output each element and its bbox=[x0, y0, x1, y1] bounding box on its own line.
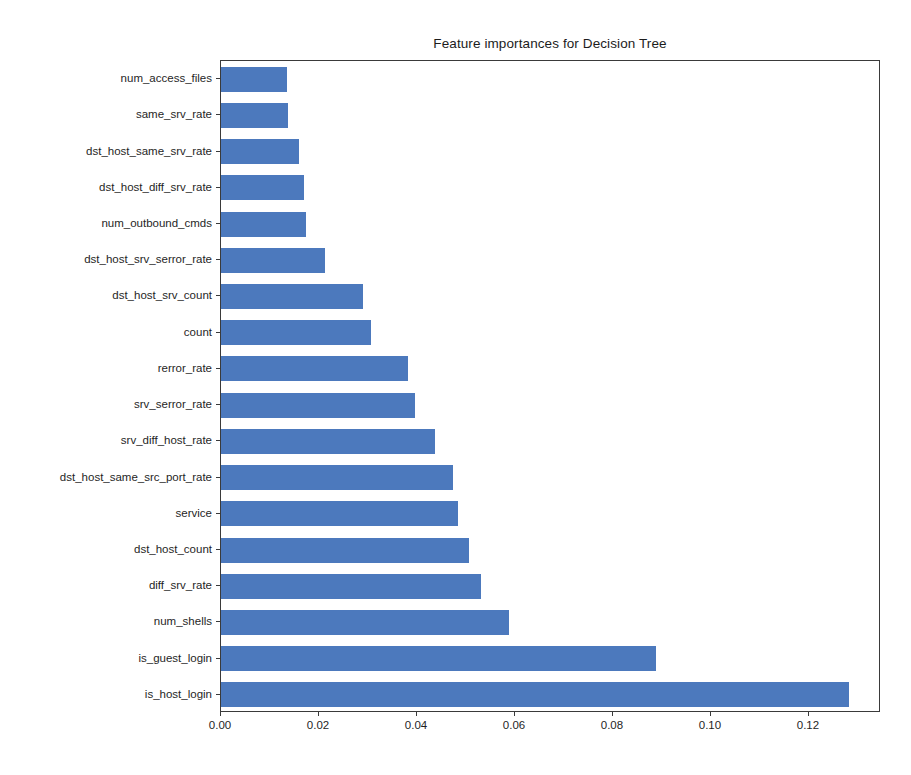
bar-dst_host_same_srv_rate bbox=[221, 139, 299, 164]
y-tick-mark bbox=[216, 477, 220, 478]
y-tick-mark bbox=[216, 114, 220, 115]
y-tick-mark bbox=[216, 404, 220, 405]
y-tick-label-rerror_rate: rerror_rate bbox=[0, 362, 212, 374]
y-axis-tick-labels: num_access_filessame_srv_ratedst_host_sa… bbox=[0, 60, 212, 712]
plot-area bbox=[221, 61, 879, 711]
y-tick-label-srv_diff_host_rate: srv_diff_host_rate bbox=[0, 434, 212, 446]
y-tick-label-num_access_files: num_access_files bbox=[0, 72, 212, 84]
bar-dst_host_srv_serror_rate bbox=[221, 248, 325, 273]
y-tick-mark bbox=[216, 658, 220, 659]
y-tick-label-srv_serror_rate: srv_serror_rate bbox=[0, 398, 212, 410]
y-tick-label-dst_host_srv_serror_rate: dst_host_srv_serror_rate bbox=[0, 253, 212, 265]
plot-axes-frame bbox=[220, 60, 880, 712]
bar-row bbox=[221, 248, 879, 273]
x-tick-label-0.02: 0.02 bbox=[307, 719, 329, 731]
figure-canvas: Feature importances for Decision Tree nu… bbox=[0, 0, 911, 775]
x-tick-mark bbox=[220, 712, 221, 716]
y-tick-label-dst_host_count: dst_host_count bbox=[0, 543, 212, 555]
bar-row bbox=[221, 538, 879, 563]
bar-dst_host_srv_count bbox=[221, 284, 363, 309]
x-tick-mark bbox=[710, 712, 711, 716]
y-tick-mark bbox=[216, 549, 220, 550]
bar-same_srv_rate bbox=[221, 103, 288, 128]
bar-dst_host_same_src_port_rate bbox=[221, 465, 453, 490]
bar-num_access_files bbox=[221, 67, 287, 92]
x-tick-mark bbox=[808, 712, 809, 716]
y-tick-mark bbox=[216, 621, 220, 622]
x-tick-label-0.12: 0.12 bbox=[797, 719, 819, 731]
bar-row bbox=[221, 465, 879, 490]
y-tick-mark bbox=[216, 585, 220, 586]
y-tick-label-diff_srv_rate: diff_srv_rate bbox=[0, 579, 212, 591]
bar-is_host_login bbox=[221, 682, 849, 707]
y-tick-label-dst_host_same_srv_rate: dst_host_same_srv_rate bbox=[0, 145, 212, 157]
bar-dst_host_count bbox=[221, 538, 469, 563]
y-tick-mark bbox=[216, 332, 220, 333]
bar-row bbox=[221, 393, 879, 418]
y-tick-mark bbox=[216, 368, 220, 369]
y-tick-label-count: count bbox=[0, 326, 212, 338]
bar-row bbox=[221, 646, 879, 671]
bar-row bbox=[221, 320, 879, 345]
bar-row bbox=[221, 429, 879, 454]
bar-row bbox=[221, 67, 879, 92]
bar-row bbox=[221, 501, 879, 526]
y-tick-label-num_outbound_cmds: num_outbound_cmds bbox=[0, 217, 212, 229]
x-tick-label-0.04: 0.04 bbox=[405, 719, 427, 731]
x-tick-mark bbox=[612, 712, 613, 716]
bar-is_guest_login bbox=[221, 646, 656, 671]
bar-row bbox=[221, 610, 879, 635]
y-tick-label-dst_host_same_src_port_rate: dst_host_same_src_port_rate bbox=[0, 471, 212, 483]
y-tick-mark bbox=[216, 440, 220, 441]
bar-srv_serror_rate bbox=[221, 393, 415, 418]
bar-diff_srv_rate bbox=[221, 574, 481, 599]
bar-row bbox=[221, 574, 879, 599]
y-tick-mark bbox=[216, 513, 220, 514]
x-tick-label-0.00: 0.00 bbox=[209, 719, 231, 731]
y-tick-mark bbox=[216, 187, 220, 188]
bar-row bbox=[221, 212, 879, 237]
y-tick-mark bbox=[216, 151, 220, 152]
y-tick-label-is_guest_login: is_guest_login bbox=[0, 652, 212, 664]
x-tick-mark bbox=[416, 712, 417, 716]
bar-rerror_rate bbox=[221, 356, 408, 381]
bar-row bbox=[221, 139, 879, 164]
y-tick-mark bbox=[216, 223, 220, 224]
y-tick-label-num_shells: num_shells bbox=[0, 615, 212, 627]
bar-row bbox=[221, 284, 879, 309]
x-tick-label-0.10: 0.10 bbox=[699, 719, 721, 731]
bar-row bbox=[221, 103, 879, 128]
x-tick-label-0.06: 0.06 bbox=[503, 719, 525, 731]
bar-row bbox=[221, 682, 879, 707]
bar-dst_host_diff_srv_rate bbox=[221, 175, 304, 200]
x-tick-mark bbox=[318, 712, 319, 716]
y-tick-label-is_host_login: is_host_login bbox=[0, 688, 212, 700]
y-tick-mark bbox=[216, 78, 220, 79]
y-tick-mark bbox=[216, 259, 220, 260]
bar-row bbox=[221, 356, 879, 381]
bar-row bbox=[221, 175, 879, 200]
y-tick-label-dst_host_diff_srv_rate: dst_host_diff_srv_rate bbox=[0, 181, 212, 193]
y-tick-label-service: service bbox=[0, 507, 212, 519]
bar-service bbox=[221, 501, 458, 526]
bar-num_shells bbox=[221, 610, 509, 635]
bar-srv_diff_host_rate bbox=[221, 429, 435, 454]
y-tick-mark bbox=[216, 295, 220, 296]
chart-title: Feature importances for Decision Tree bbox=[220, 36, 880, 51]
bar-count bbox=[221, 320, 371, 345]
y-tick-mark bbox=[216, 694, 220, 695]
y-tick-label-dst_host_srv_count: dst_host_srv_count bbox=[0, 289, 212, 301]
x-tick-label-0.08: 0.08 bbox=[601, 719, 623, 731]
y-tick-label-same_srv_rate: same_srv_rate bbox=[0, 108, 212, 120]
bar-num_outbound_cmds bbox=[221, 212, 306, 237]
x-tick-mark bbox=[514, 712, 515, 716]
